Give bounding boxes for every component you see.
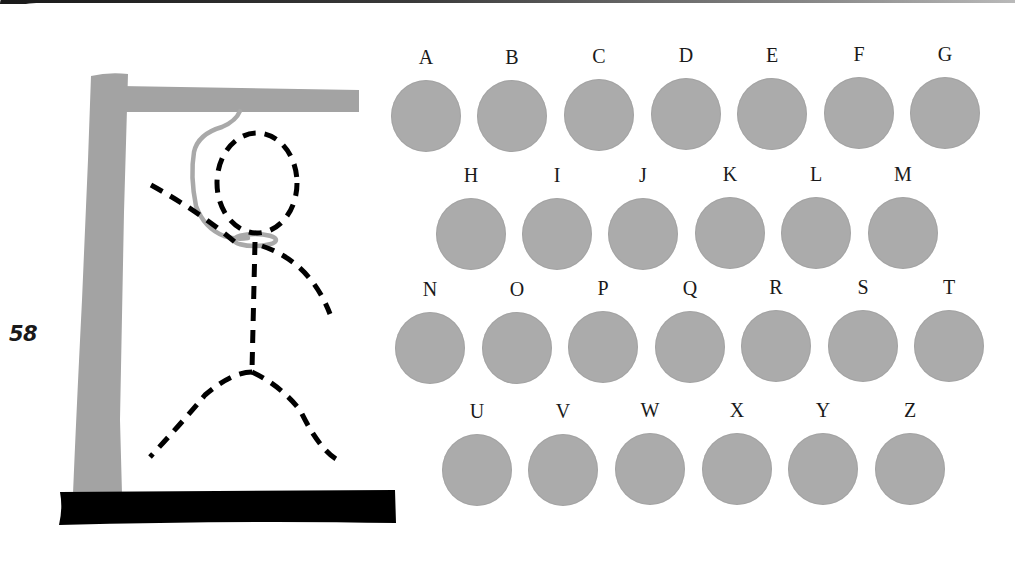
letter-circle[interactable] xyxy=(702,433,772,505)
letter-key-d[interactable]: D xyxy=(651,44,721,154)
letter-label: O xyxy=(482,278,552,300)
letter-label: T xyxy=(914,276,984,298)
letter-circle[interactable] xyxy=(482,312,552,384)
letter-key-v[interactable]: V xyxy=(528,400,598,510)
letter-label: Q xyxy=(655,277,725,299)
letter-key-w[interactable]: W xyxy=(615,399,685,509)
gallows-post xyxy=(73,73,128,494)
letter-label: R xyxy=(741,276,811,298)
letter-circle[interactable] xyxy=(868,197,938,269)
letter-circle[interactable] xyxy=(528,434,598,506)
letter-key-s[interactable]: S xyxy=(828,276,898,386)
letter-key-x[interactable]: X xyxy=(702,399,772,509)
letter-key-t[interactable]: T xyxy=(914,276,984,386)
letter-key-i[interactable]: I xyxy=(522,164,592,274)
letter-circle[interactable] xyxy=(651,78,721,150)
letter-circle[interactable] xyxy=(442,434,512,506)
letter-key-y[interactable]: Y xyxy=(788,399,858,509)
letter-circle[interactable] xyxy=(695,197,765,269)
letter-label: J xyxy=(608,164,678,186)
gallows-beam xyxy=(120,86,359,112)
letter-label: N xyxy=(395,278,465,300)
letter-label: M xyxy=(868,163,938,185)
letter-key-p[interactable]: P xyxy=(568,277,638,387)
letter-label: H xyxy=(436,164,506,186)
letter-key-g[interactable]: G xyxy=(910,43,980,153)
letter-circle[interactable] xyxy=(910,77,980,149)
letter-circle[interactable] xyxy=(781,197,851,269)
letter-label: E xyxy=(737,44,807,66)
gallows-base xyxy=(59,490,396,525)
letter-key-c[interactable]: C xyxy=(564,45,634,155)
letter-label: V xyxy=(528,400,598,422)
letter-label: D xyxy=(651,44,721,66)
letter-circle[interactable] xyxy=(568,311,638,383)
letter-key-a[interactable]: A xyxy=(391,46,461,156)
letter-label: G xyxy=(910,43,980,65)
letter-label: A xyxy=(391,46,461,68)
letter-label: F xyxy=(824,43,894,65)
letter-circle[interactable] xyxy=(391,80,461,152)
letter-circle[interactable] xyxy=(655,311,725,383)
letter-key-j[interactable]: J xyxy=(608,164,678,274)
letter-circle[interactable] xyxy=(741,310,811,382)
letter-key-f[interactable]: F xyxy=(824,43,894,153)
letter-label: C xyxy=(564,45,634,67)
letter-key-k[interactable]: K xyxy=(695,163,765,273)
letter-key-h[interactable]: H xyxy=(436,164,506,274)
letter-circle[interactable] xyxy=(824,77,894,149)
letter-circle[interactable] xyxy=(615,433,685,505)
letter-key-z[interactable]: Z xyxy=(875,399,945,509)
letter-key-b[interactable]: B xyxy=(477,46,547,156)
letter-circle[interactable] xyxy=(828,310,898,382)
gallows-icon xyxy=(0,0,420,582)
letter-key-e[interactable]: E xyxy=(737,44,807,154)
letter-circle[interactable] xyxy=(395,312,465,384)
letter-circle[interactable] xyxy=(477,80,547,152)
letter-circle[interactable] xyxy=(564,79,634,151)
letter-circle[interactable] xyxy=(737,78,807,150)
letter-circle[interactable] xyxy=(788,433,858,505)
letter-label: K xyxy=(695,163,765,185)
letter-circle[interactable] xyxy=(522,198,592,270)
letter-label: Z xyxy=(875,399,945,421)
letter-circle[interactable] xyxy=(436,198,506,270)
letter-label: P xyxy=(568,277,638,299)
letter-label: Y xyxy=(788,399,858,421)
letter-key-q[interactable]: Q xyxy=(655,277,725,387)
hangman-page: 58 A xyxy=(0,0,1015,582)
letter-label: B xyxy=(477,46,547,68)
letter-circle[interactable] xyxy=(914,310,984,382)
letter-label: I xyxy=(522,164,592,186)
letter-label: S xyxy=(828,276,898,298)
letter-key-o[interactable]: O xyxy=(482,278,552,388)
letter-label: L xyxy=(781,163,851,185)
letter-key-r[interactable]: R xyxy=(741,276,811,386)
letter-label: X xyxy=(702,399,772,421)
letter-key-m[interactable]: M xyxy=(868,163,938,273)
letter-circle[interactable] xyxy=(875,433,945,505)
letter-key-l[interactable]: L xyxy=(781,163,851,273)
letter-circle[interactable] xyxy=(608,198,678,270)
dashed-stick-figure-icon xyxy=(150,133,342,462)
letter-key-u[interactable]: U xyxy=(442,400,512,510)
letter-label: U xyxy=(442,400,512,422)
letter-label: W xyxy=(615,399,685,421)
letter-key-n[interactable]: N xyxy=(395,278,465,388)
